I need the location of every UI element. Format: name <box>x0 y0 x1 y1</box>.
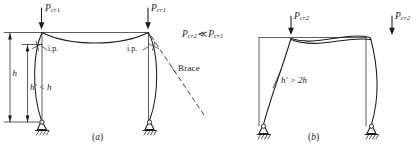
brace-label: Brace <box>178 64 200 73</box>
load-label-b-left: Pcr2 <box>294 12 309 22</box>
inflection-point-label-a-left: i.p. <box>48 45 58 53</box>
dimension-leader-b <box>273 70 281 88</box>
pin-support-b-right <box>365 124 379 139</box>
inflection-point-label-a-right: i.p. <box>127 45 137 53</box>
dimension-label-b-h-prime: h' > 2h <box>281 76 307 85</box>
load-label-a-right: Pcr1 <box>151 4 166 14</box>
undeformed-frame-b <box>259 38 366 127</box>
figure-canvas: Pcr1 Pcr1 i.p. i.p. h h' < h Pcr2≪Pcr1 B… <box>0 0 419 151</box>
figure-drawing <box>0 0 419 151</box>
load-label-a-left: Pcr1 <box>45 4 60 14</box>
brace-line-a <box>151 36 206 118</box>
brace-label-leader <box>172 68 176 73</box>
dimension-label-h-prime: h' < h <box>30 83 52 92</box>
load-arrow-a-left <box>39 8 45 30</box>
caption-panel-b: (b) <box>308 133 319 143</box>
deflected-beam-a <box>42 33 149 44</box>
panel-b-drawing <box>257 16 395 139</box>
dimension-label-h: h <box>13 69 18 78</box>
ip-leader-a-right <box>143 47 149 51</box>
critical-load-relation: Pcr2≪Pcr1 <box>182 30 223 40</box>
deflected-column-b-right <box>371 38 378 125</box>
caption-panel-a: (a) <box>92 133 103 143</box>
load-label-b-right: Pcr2 <box>395 12 410 22</box>
pin-support-a-right <box>143 120 157 135</box>
panel-a-drawing <box>4 8 206 135</box>
